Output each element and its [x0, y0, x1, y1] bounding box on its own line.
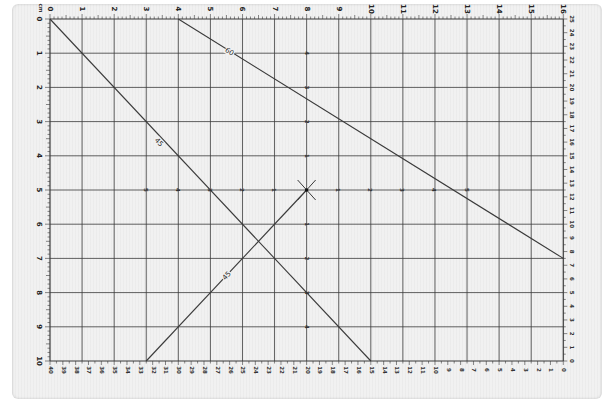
left-ruler-label: 5 — [35, 188, 43, 193]
bottom-ruler-label: 12 — [407, 366, 413, 374]
center-axis-label: 1 — [271, 188, 277, 192]
bottom-ruler-label: 35 — [112, 366, 118, 374]
left-ruler-label: 3 — [35, 119, 43, 124]
center-axis-label: 1 — [304, 154, 310, 158]
right-ruler-label: 13 — [569, 179, 575, 187]
right-ruler-label: 5 — [569, 291, 575, 295]
center-axis-label: 2 — [367, 188, 373, 192]
right-ruler-label: 2 — [569, 332, 575, 336]
top-ruler-label: 0 — [46, 7, 54, 12]
center-axis-label: 5 — [464, 188, 470, 192]
top-ruler-label: 12 — [431, 4, 439, 14]
right-ruler-label: 23 — [569, 43, 575, 51]
left-ruler-label: 4 — [35, 153, 43, 158]
top-ruler-label: 8 — [303, 7, 311, 12]
top-ruler-label: 5 — [206, 7, 214, 12]
right-ruler-label: 19 — [569, 97, 575, 105]
bottom-ruler-label: 28 — [202, 366, 208, 374]
left-ruler-label: 7 — [35, 256, 43, 261]
center-axis-label: 2 — [239, 188, 245, 192]
top-ruler-label: 10 — [367, 4, 375, 14]
bottom-ruler-label: 15 — [369, 366, 375, 374]
right-ruler-label: 21 — [569, 70, 575, 78]
right-ruler-label: 16 — [569, 138, 575, 146]
bottom-ruler-label: 14 — [382, 366, 388, 374]
center-dot — [305, 188, 309, 192]
right-ruler-label: 8 — [569, 250, 575, 254]
bottom-ruler-label: 2 — [536, 368, 542, 372]
right-ruler-label: 12 — [569, 193, 575, 201]
right-ruler-label: 15 — [569, 152, 575, 160]
bottom-ruler-label: 26 — [228, 366, 234, 374]
bottom-ruler-label: 13 — [394, 366, 400, 374]
center-axis-label: 4 — [431, 188, 437, 192]
right-ruler-label: 24 — [569, 29, 575, 37]
top-ruler-label: 2 — [110, 7, 118, 12]
bottom-ruler-label: 16 — [356, 366, 362, 374]
angle-label: 45 — [153, 136, 165, 148]
bottom-ruler-label: 3 — [523, 368, 529, 372]
bottom-ruler-label: 10 — [433, 366, 439, 374]
right-ruler-label: 6 — [569, 277, 575, 281]
bottom-ruler-label: 8 — [459, 368, 465, 372]
right-ruler-label: 20 — [569, 84, 575, 92]
right-ruler-label: 4 — [569, 304, 575, 308]
center-axis-label: 3 — [304, 291, 310, 295]
top-ruler-label: 9 — [335, 7, 343, 12]
right-ruler-label: 22 — [569, 56, 575, 64]
left-ruler-label: 8 — [35, 290, 43, 295]
right-ruler-label: 14 — [569, 166, 575, 174]
bottom-ruler-label: 27 — [215, 366, 221, 374]
center-axis-label: 3 — [304, 85, 310, 89]
bottom-ruler-label: 25 — [240, 366, 246, 374]
top-ruler-label: 1 — [78, 7, 86, 12]
center-axis-label: 4 — [304, 325, 310, 329]
top-ruler-label: 7 — [271, 7, 279, 12]
bottom-ruler-label: 29 — [189, 366, 195, 374]
center-axis-label: 4 — [175, 188, 181, 192]
right-ruler-label: 25 — [569, 15, 575, 23]
bottom-ruler-label: 9 — [446, 368, 452, 372]
bottom-ruler-label: 30 — [176, 366, 182, 374]
bottom-ruler-label: 11 — [420, 366, 426, 374]
top-ruler-label: 3 — [142, 7, 150, 12]
bottom-ruler-label: 0 — [561, 368, 567, 372]
bottom-ruler-label: 23 — [266, 366, 272, 374]
bottom-ruler-label: 31 — [163, 366, 169, 374]
bottom-ruler-label: 24 — [253, 366, 259, 374]
center-axis-label: 1 — [304, 222, 310, 226]
top-ruler-label: 13 — [463, 4, 471, 14]
top-ruler-label: 4 — [174, 7, 182, 12]
unit-mark: cm — [38, 4, 44, 13]
top-ruler-label: 14 — [495, 4, 503, 14]
right-ruler-label: 18 — [569, 111, 575, 119]
bottom-ruler-label: 38 — [74, 366, 80, 374]
bottom-ruler-label: 19 — [317, 366, 323, 374]
bottom-ruler-label: 34 — [125, 366, 131, 374]
bottom-ruler-label: 6 — [484, 368, 490, 372]
cutting-mat-grid: 012345678910111213141516012345678910cm25… — [0, 0, 613, 410]
left-ruler-label: 2 — [35, 85, 43, 90]
right-ruler-label: 10 — [569, 220, 575, 228]
bottom-ruler-label: 18 — [330, 366, 336, 374]
bottom-ruler-label: 39 — [61, 366, 67, 374]
top-ruler-label: 15 — [527, 4, 535, 14]
right-ruler-label: 0 — [569, 359, 575, 363]
right-ruler-label: 7 — [569, 263, 575, 267]
right-ruler-label: 9 — [569, 236, 575, 240]
bottom-ruler-label: 1 — [548, 368, 554, 372]
right-ruler-label: 1 — [569, 345, 575, 349]
left-ruler-label: 9 — [35, 324, 43, 329]
top-ruler-label: 11 — [399, 4, 407, 14]
bottom-ruler-label: 20 — [305, 366, 311, 374]
center-axis-label: 5 — [143, 188, 149, 192]
bottom-ruler-label: 21 — [292, 366, 298, 374]
center-axis-label: 2 — [304, 120, 310, 124]
center-axis-label: 3 — [207, 188, 213, 192]
bottom-ruler-label: 40 — [48, 366, 54, 374]
center-axis-label: 4 — [304, 51, 310, 55]
center-axis-label: 1 — [335, 188, 341, 192]
top-ruler-label: 6 — [238, 7, 246, 12]
right-ruler-label: 3 — [569, 318, 575, 322]
bottom-ruler-label: 37 — [86, 366, 92, 374]
